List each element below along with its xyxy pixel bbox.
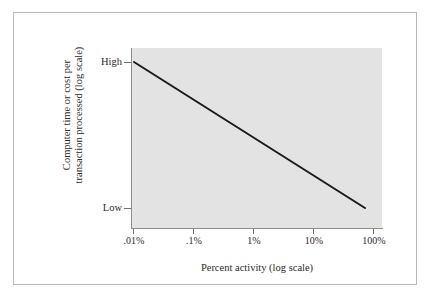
y-axis-title-line-1: Computer time or cost per — [61, 25, 73, 205]
y-tick-high — [124, 62, 131, 63]
x-tick-label-2: 1% — [247, 235, 260, 246]
x-tick-2 — [253, 229, 254, 234]
x-tick-label-0: .01% — [124, 235, 145, 246]
y-axis-line — [131, 48, 132, 229]
x-tick-0 — [133, 229, 134, 234]
x-tick-4 — [373, 229, 374, 234]
figure-canvas: High Low .01% .1% 1% 10% 100% Percent ac… — [0, 0, 431, 297]
plot-area — [132, 48, 382, 228]
x-tick-label-4: 100% — [362, 235, 385, 246]
x-tick-label-1: .1% — [186, 235, 202, 246]
x-axis-line — [131, 228, 383, 229]
x-tick-3 — [313, 229, 314, 234]
x-axis-title: Percent activity (log scale) — [132, 262, 382, 273]
y-axis-title-line-2: transaction processed (log scale) — [73, 25, 85, 205]
x-tick-1 — [193, 229, 194, 234]
y-axis-title: Computer time or cost per transaction pr… — [61, 25, 85, 205]
x-tick-label-3: 10% — [305, 235, 323, 246]
y-tick-low — [124, 208, 131, 209]
